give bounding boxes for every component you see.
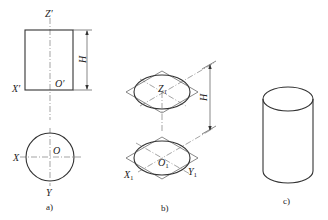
caption-b: b) xyxy=(161,203,169,213)
label-z-prime: Z′ xyxy=(45,8,54,19)
arrow-up-icon xyxy=(85,30,88,35)
label-o: O xyxy=(53,145,60,156)
caption-a: a) xyxy=(46,202,53,212)
panel-c: c) xyxy=(263,87,313,206)
label-z1: Z1 xyxy=(158,83,168,96)
label-y: Y xyxy=(46,187,53,198)
label-x-prime: X′ xyxy=(11,83,21,94)
panel-a: H Z′ X′ O′ X O Y a) xyxy=(11,8,92,212)
front-view-rectangle xyxy=(25,30,73,90)
cylinder-top-ellipse xyxy=(263,87,313,111)
cylinder-drawing-figure: H Z′ X′ O′ X O Y a) Z1 O1 X1 Y1 H xyxy=(0,0,328,220)
cylinder-bottom-arc xyxy=(263,171,313,183)
label-h-b: H xyxy=(198,93,209,102)
label-x1: X1 xyxy=(123,169,134,182)
bottom-axis-y xyxy=(138,128,214,172)
panel-b: Z1 O1 X1 Y1 H b) xyxy=(123,61,216,213)
label-o-prime: O′ xyxy=(55,78,65,89)
arrow-down-icon xyxy=(85,85,88,90)
caption-c: c) xyxy=(283,196,290,206)
label-h-a: H xyxy=(77,55,88,64)
label-y1: Y1 xyxy=(188,166,198,179)
label-o1: O1 xyxy=(158,157,169,170)
label-x: X xyxy=(12,152,20,163)
